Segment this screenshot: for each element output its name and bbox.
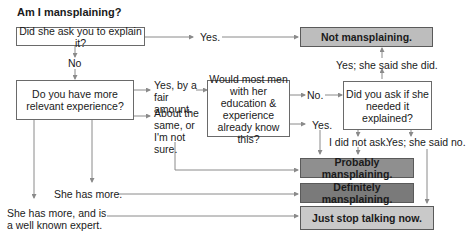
chart-title: Am I mansplaining? <box>17 6 122 18</box>
edge-label-no: No <box>68 57 81 69</box>
edge-label-yes-men: Yes. <box>312 119 332 131</box>
edge-label-yes: Yes. <box>200 31 220 43</box>
edge-label-yes-she-did: Yes; she said she did. <box>336 59 438 71</box>
edge-label-well-known-expert: She has more, and is a well known expert… <box>7 207 107 231</box>
edge-label-did-not-ask: I did not ask. <box>329 136 389 148</box>
question-would-men-know: Would most men with her education & expe… <box>207 80 290 137</box>
outcome-not-mansplaining: Not mansplaining. <box>300 27 433 47</box>
question-did-you-ask: Did you ask if she needed it explained? <box>343 81 432 130</box>
edge-label-yes-she-said-no: Yes; she said no. <box>386 136 466 148</box>
edge-label-no-men: No. <box>307 89 323 101</box>
outcome-probably-mansplaining: Probably mansplaining. <box>300 158 414 178</box>
edge-label-she-has-more: She has more. <box>54 188 122 200</box>
edge-label-about-same: About the same, or I'm not sure. <box>154 107 206 155</box>
question-more-experience: Do you have more relevant experience? <box>16 80 134 120</box>
outcome-definitely-mansplaining: Definitely mansplaining. <box>300 183 414 203</box>
question-asked-to-explain: Did she ask you to explain it? <box>16 27 145 46</box>
outcome-stop-talking: Just stop talking now. <box>300 206 434 230</box>
